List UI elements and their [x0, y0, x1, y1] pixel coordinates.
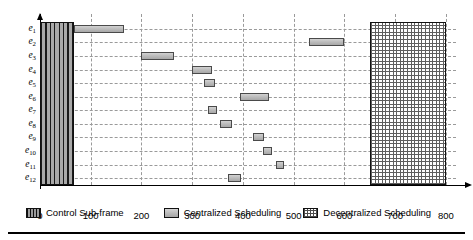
- y-axis-label-e7: e7: [28, 106, 36, 116]
- centralized-scheduling-bar: [204, 79, 215, 87]
- vertical-gridline: [91, 14, 92, 185]
- centralized-scheduling-bar: [228, 174, 241, 182]
- legend-item-centralized-scheduling: Centralized Scheduling: [164, 208, 282, 218]
- vertical-gridline: [294, 14, 295, 185]
- centralized-scheduling-bar: [141, 52, 174, 60]
- bottom-divider: [8, 232, 465, 234]
- vertical-gridline: [141, 14, 142, 185]
- y-axis-label-e8: e8: [28, 119, 36, 129]
- legend-item-decentralized-scheduling: Decentralized Scheduling: [303, 208, 431, 218]
- centralized-scheduling-bar: [253, 133, 264, 141]
- y-axis-label-e5: e5: [28, 78, 36, 88]
- legend-label-decentralized-scheduling: Decentralized Scheduling: [323, 208, 431, 218]
- y-axis-label-e10: e10: [25, 146, 36, 156]
- decentralized-scheduling-block: [370, 22, 446, 185]
- legend-label-control-sub-frame: Control Sub-frame: [46, 208, 124, 218]
- y-axis-label-e1: e1: [28, 24, 36, 34]
- centralized-scheduling-bar: [276, 161, 284, 169]
- vertical-gridline: [446, 14, 447, 185]
- y-axis-label-e9: e9: [28, 133, 36, 143]
- figure-container: e1e2e3e4e5e6e7e8e9e10e11e12 010020030040…: [0, 0, 473, 240]
- legend-label-centralized-scheduling: Centralized Scheduling: [184, 208, 282, 218]
- control-subframe-swatch-icon: [26, 208, 41, 218]
- centralized-scheduling-bar: [220, 120, 232, 128]
- decentralized-scheduling-swatch-icon: [303, 208, 318, 218]
- control-subframe-block: [40, 22, 74, 185]
- y-axis-label-e11: e11: [25, 160, 36, 170]
- centralized-scheduling-bar: [208, 106, 217, 114]
- y-axis-label-e4: e4: [28, 65, 36, 75]
- centralized-scheduling-bar: [74, 25, 123, 33]
- x-axis-line: [40, 185, 466, 186]
- centralized-scheduling-bar: [309, 38, 345, 46]
- vertical-gridline: [344, 14, 345, 185]
- centralized-scheduling-bar: [263, 147, 272, 155]
- vertical-gridline: [192, 14, 193, 185]
- y-axis-label-e3: e3: [28, 51, 36, 61]
- centralized-scheduling-swatch-icon: [164, 208, 179, 218]
- chart-legend: Control Sub-frame Centralized Scheduling…: [26, 204, 452, 221]
- centralized-scheduling-bar: [240, 93, 269, 101]
- y-axis-label-e2: e2: [28, 38, 36, 48]
- plot-area: e1e2e3e4e5e6e7e8e9e10e11e12 010020030040…: [40, 22, 456, 185]
- legend-item-control-sub-frame: Control Sub-frame: [26, 208, 124, 218]
- y-axis-label-e12: e12: [25, 173, 36, 183]
- y-axis-label-e6: e6: [28, 92, 36, 102]
- centralized-scheduling-bar: [192, 66, 212, 74]
